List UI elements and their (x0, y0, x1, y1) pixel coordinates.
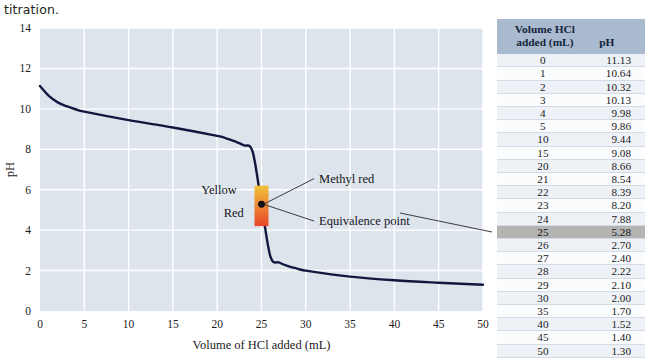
table-row: 159.08 (497, 146, 645, 159)
table-row: 228.39 (497, 186, 645, 199)
cell-volume: 3 (497, 93, 589, 106)
table-row: 302.00 (497, 291, 645, 304)
x-tick-label: 35 (344, 318, 356, 330)
cell-ph: 8.66 (589, 159, 645, 172)
y-tick-label: 4 (25, 224, 31, 236)
cell-volume: 26 (497, 239, 589, 252)
table-row: 451.40 (497, 331, 645, 344)
cell-volume: 50 (497, 344, 589, 357)
y-tick-label: 2 (25, 265, 31, 277)
table-row: 208.66 (497, 159, 645, 172)
x-tick-label: 50 (477, 318, 489, 330)
header-volume-line1: Volume HCl (503, 23, 587, 36)
cell-ph: 11.13 (589, 54, 645, 67)
equivalence-point-marker (258, 201, 265, 208)
x-tick-label: 0 (37, 318, 43, 330)
cell-ph: 2.00 (589, 291, 645, 304)
x-tick-label: 30 (300, 318, 312, 330)
cell-volume: 23 (497, 199, 589, 212)
table-row: 272.40 (497, 252, 645, 265)
y-tick-label: 12 (20, 62, 32, 74)
cell-ph: 9.98 (589, 107, 645, 120)
y-tick-label: 0 (25, 305, 31, 317)
table-row: 282.22 (497, 265, 645, 278)
cell-ph: 9.08 (589, 146, 645, 159)
cell-volume: 35 (497, 305, 589, 318)
x-tick-label: 15 (167, 318, 179, 330)
cell-volume: 1 (497, 67, 589, 80)
y-axis-title: pH (3, 162, 17, 177)
cell-ph: 5.28 (589, 225, 645, 238)
cell-volume: 45 (497, 331, 589, 344)
table-row: 310.13 (497, 93, 645, 106)
cell-volume: 20 (497, 159, 589, 172)
cell-volume: 10 (497, 133, 589, 146)
x-axis-tick-labels: 05101520253035404550 (37, 318, 489, 330)
table-row: 218.54 (497, 173, 645, 186)
cell-ph: 2.70 (589, 239, 645, 252)
chart-svg: 05101520253035404550 02468101214 Methyl … (0, 14, 492, 362)
table-row: 292.10 (497, 278, 645, 291)
table-row: 210.32 (497, 80, 645, 93)
x-tick-label: 20 (211, 318, 223, 330)
header-ph: pH (589, 19, 645, 54)
table-body: 011.13110.64210.32310.1349.9859.86109.44… (497, 54, 645, 357)
cell-ph: 7.88 (589, 212, 645, 225)
annotation-methyl-red: Methyl red (319, 172, 375, 186)
header-volume-line2: added (mL) (503, 36, 587, 49)
cell-ph: 8.54 (589, 173, 645, 186)
cell-volume: 29 (497, 278, 589, 291)
table-header: Volume HCl added (mL) pH (497, 19, 645, 54)
cell-ph: 2.22 (589, 265, 645, 278)
y-tick-label: 6 (25, 184, 31, 196)
y-tick-label: 14 (20, 22, 32, 34)
x-tick-label: 45 (433, 318, 445, 330)
y-axis-tick-labels: 02468101214 (20, 22, 32, 317)
titration-data-table: Volume HCl added (mL) pH 011.13110.64210… (497, 19, 645, 358)
table-row: 238.20 (497, 199, 645, 212)
x-axis-title: Volume of HCl added (mL) (193, 338, 331, 352)
cell-volume: 25 (497, 225, 589, 238)
cell-ph: 1.30 (589, 344, 645, 357)
annotation-indicator-yellow: Yellow (201, 183, 237, 197)
header-volume: Volume HCl added (mL) (497, 19, 589, 54)
cell-volume: 27 (497, 252, 589, 265)
cell-volume: 30 (497, 291, 589, 304)
table-header-row: Volume HCl added (mL) pH (497, 19, 645, 54)
table-row: 255.28 (497, 225, 645, 238)
cell-volume: 15 (497, 146, 589, 159)
table-row: 110.64 (497, 67, 645, 80)
cell-volume: 2 (497, 80, 589, 93)
cell-volume: 0 (497, 54, 589, 67)
x-tick-label: 25 (256, 318, 268, 330)
table-row: 109.44 (497, 133, 645, 146)
cell-volume: 24 (497, 212, 589, 225)
cell-ph: 1.40 (589, 331, 645, 344)
cell-volume: 4 (497, 107, 589, 120)
cell-ph: 9.44 (589, 133, 645, 146)
annotation-indicator-red: Red (224, 206, 245, 220)
x-tick-label: 10 (123, 318, 135, 330)
table-row: 501.30 (497, 344, 645, 357)
cell-volume: 21 (497, 173, 589, 186)
cell-ph: 8.39 (589, 186, 645, 199)
cell-volume: 40 (497, 318, 589, 331)
table-row: 011.13 (497, 54, 645, 67)
titration-chart: 05101520253035404550 02468101214 Methyl … (0, 14, 492, 362)
cell-volume: 5 (497, 120, 589, 133)
table-row: 351.70 (497, 305, 645, 318)
cell-ph: 2.40 (589, 252, 645, 265)
cell-ph: 2.10 (589, 278, 645, 291)
titration-figure: titration. 05101520253035404550 02468101… (0, 0, 649, 362)
cell-ph: 10.64 (589, 67, 645, 80)
cell-ph: 1.52 (589, 318, 645, 331)
cell-ph: 10.32 (589, 80, 645, 93)
annotation-equivalence-point: Equivalence point (319, 214, 410, 228)
y-tick-label: 8 (25, 143, 31, 155)
cell-ph: 10.13 (589, 93, 645, 106)
table-row: 49.98 (497, 107, 645, 120)
cell-volume: 22 (497, 186, 589, 199)
table-row: 401.52 (497, 318, 645, 331)
table-row: 247.88 (497, 212, 645, 225)
cell-ph: 1.70 (589, 305, 645, 318)
